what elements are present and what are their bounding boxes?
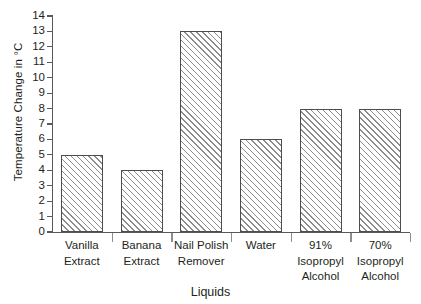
category-label-line: Extract [112,254,172,270]
y-axis-tick-label: 0 [5,226,45,238]
bar [180,31,222,232]
y-axis-tick-label: 9 [5,87,45,99]
bar [359,109,401,232]
x-axis-category-label: VanillaExtract [52,238,112,269]
y-axis-tick [47,123,53,124]
category-label-line: Extract [52,254,112,270]
y-axis-tick-label: 7 [5,118,45,130]
y-axis-tick [47,201,53,202]
bar-chart: Temperature Change in °C 012345678910111… [0,0,421,304]
y-axis-tick [47,93,53,94]
y-axis-tick-label: 3 [5,180,45,192]
category-label-line: Water [231,238,291,254]
y-axis-tick-label: 5 [5,149,45,161]
y-axis-tick [47,139,53,140]
y-axis-tick [47,15,53,16]
y-axis-tick-label: 8 [5,103,45,115]
y-axis-tick [47,62,53,63]
y-axis-tick [47,77,53,78]
y-axis-tick [47,185,53,186]
y-axis-tick-label: 14 [5,10,45,22]
y-axis-tick [47,46,53,47]
x-axis-category-label: BananaExtract [112,238,172,269]
category-label-line: Vanilla [52,238,112,254]
y-axis-tick-label: 6 [5,133,45,145]
x-axis-category-label: Water [231,238,291,254]
x-axis-tick [410,233,411,242]
x-axis-title: Liquids [0,285,421,299]
category-label-line: Alcohol [350,269,410,285]
x-axis-category-label: Nail PolishRemover [171,238,231,269]
category-label-line: Banana [112,238,172,254]
category-label-line: Alcohol [291,269,351,285]
y-axis-tick [47,108,53,109]
y-axis-tick-label: 13 [5,25,45,37]
category-label-line: Isopropyl [291,254,351,270]
category-label-line: Nail Polish [171,238,231,254]
y-axis-tick [47,31,53,32]
y-axis-tick-label: 10 [5,72,45,84]
y-axis-tick [47,154,53,155]
bar [121,170,163,232]
bar [61,155,103,232]
category-label-line: Remover [171,254,231,270]
y-axis-tick-label: 2 [5,195,45,207]
y-axis-tick [47,231,53,232]
y-axis-tick [47,170,53,171]
y-axis-tick-label: 12 [5,41,45,53]
category-label-line: 91% [291,238,351,254]
bar [240,139,282,232]
category-label-line: Isopropyl [350,254,410,270]
y-axis-tick-label: 11 [5,56,45,68]
bar [300,109,342,232]
y-axis-tick-label: 1 [5,211,45,223]
y-axis-tick [47,216,53,217]
x-axis-category-label: 91%IsopropylAlcohol [291,238,351,285]
x-axis-category-label: 70%IsopropylAlcohol [350,238,410,285]
category-label-line: 70% [350,238,410,254]
y-axis-tick-label: 4 [5,164,45,176]
